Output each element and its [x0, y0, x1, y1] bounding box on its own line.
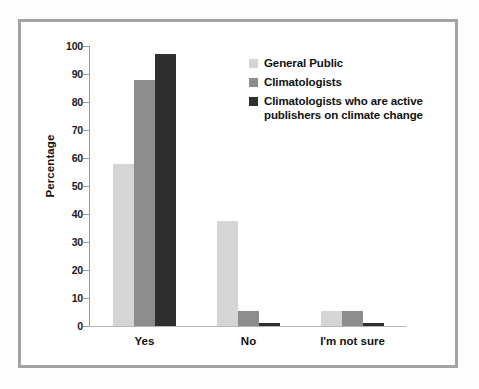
y-axis-tick-label: 10 — [52, 292, 83, 304]
y-axis-tick — [83, 158, 89, 159]
y-axis-tick — [83, 102, 89, 103]
y-axis-tick-label-text: 80 — [55, 96, 83, 108]
bar — [342, 311, 363, 326]
y-axis-tick-label: 20 — [52, 264, 83, 276]
y-axis-tick-label-text: 100 — [55, 40, 83, 52]
y-axis-tick-label: 60 — [52, 152, 83, 164]
y-axis-tick — [83, 130, 89, 131]
legend-label: Climatologists who are active publishers… — [264, 94, 423, 122]
y-axis-title: Percentage — [44, 111, 56, 221]
legend-item: Climatologists — [249, 75, 449, 89]
legend-item: General Public — [249, 56, 449, 70]
y-axis-tick-label: 50 — [52, 180, 83, 192]
y-axis-tick-label: 30 — [52, 236, 83, 248]
chart-legend: General PublicClimatologistsClimatologis… — [249, 56, 449, 127]
bar — [321, 311, 342, 326]
bar — [217, 221, 238, 326]
bar — [363, 323, 384, 326]
y-axis-tick-label-text: 0 — [55, 320, 83, 332]
y-axis-tick-label: 70 — [52, 124, 83, 136]
legend-label: Climatologists — [264, 75, 342, 89]
legend-label: General Public — [264, 56, 343, 70]
y-axis-tick-label-text: 60 — [55, 152, 83, 164]
y-axis-tick-label-text: 50 — [55, 180, 83, 192]
chart-figure: 1009080706050403020100 Percentage YesNoI… — [0, 0, 479, 389]
bar — [113, 164, 134, 326]
legend-swatch-icon — [249, 97, 258, 106]
y-axis-tick — [83, 46, 89, 47]
legend-swatch-icon — [249, 59, 258, 68]
y-axis-tick-label-text: 30 — [55, 236, 83, 248]
y-axis-tick — [83, 298, 89, 299]
y-axis-tick-label-text: 70 — [55, 124, 83, 136]
x-axis-category-label: Yes — [87, 335, 202, 347]
plot-area: 1009080706050403020100 Percentage YesNoI… — [0, 0, 479, 389]
bar — [259, 323, 280, 326]
y-axis-tick — [83, 214, 89, 215]
y-axis-tick-label: 80 — [52, 96, 83, 108]
y-axis-tick-label: 0 — [52, 320, 83, 332]
y-axis-tick — [83, 270, 89, 271]
y-axis-tick-label-text: 90 — [55, 68, 83, 80]
x-axis-category-label: No — [191, 335, 306, 347]
y-axis-tick — [83, 186, 89, 187]
y-axis-tick-label: 100 — [52, 40, 83, 52]
bar — [238, 311, 259, 326]
y-axis-line — [89, 46, 90, 327]
x-axis-line — [89, 326, 406, 327]
y-axis-tick — [83, 74, 89, 75]
bar — [134, 80, 155, 326]
legend-item: Climatologists who are active publishers… — [249, 94, 449, 122]
x-axis-category-label: I'm not sure — [295, 335, 410, 347]
bar — [155, 54, 176, 326]
y-axis-tick-label-text: 10 — [55, 292, 83, 304]
y-axis-tick-label: 40 — [52, 208, 83, 220]
y-axis-tick-label-text: 20 — [55, 264, 83, 276]
y-axis-tick-label: 90 — [52, 68, 83, 80]
y-axis-tick — [83, 242, 89, 243]
y-axis-tick-label-text: 40 — [55, 208, 83, 220]
legend-swatch-icon — [249, 78, 258, 87]
